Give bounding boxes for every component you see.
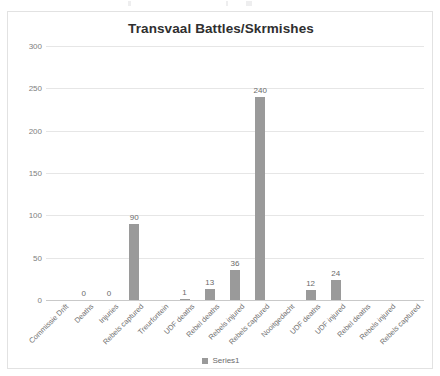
bar-value-label: 24 [331, 269, 340, 278]
bar-value-label: 1 [182, 288, 186, 297]
x-axis-category-labels: Commissie DriftDeathsInjuriesRebels capt… [46, 300, 424, 362]
bar-value-label: 13 [205, 278, 214, 287]
chart-title: Transvaal Battles/Skrmishes [8, 21, 434, 36]
y-tick-label: 250 [8, 84, 42, 93]
y-axis-tick-labels: 050100150200250300 [8, 46, 42, 300]
plot-area: 0090113362401224 [46, 46, 424, 300]
gridline [46, 131, 424, 132]
chart-legend: Series1 [8, 356, 434, 365]
bar[interactable] [306, 290, 316, 300]
bar[interactable] [331, 280, 341, 300]
legend-swatch-series1 [202, 358, 208, 364]
chart-container: Transvaal Battles/Skrmishes 050100150200… [7, 11, 433, 369]
y-tick-label: 0 [8, 296, 42, 305]
bar[interactable] [230, 270, 240, 300]
bar[interactable] [129, 224, 139, 300]
bar-value-label: 240 [254, 86, 267, 95]
bar-value-label: 90 [130, 213, 139, 222]
gridline [46, 173, 424, 174]
gridline [46, 215, 424, 216]
gridline [46, 46, 424, 47]
x-category-label: Deaths [72, 302, 95, 325]
y-tick-label: 300 [8, 42, 42, 51]
bar-value-label: 12 [306, 279, 315, 288]
y-tick-label: 200 [8, 126, 42, 135]
bar[interactable] [255, 97, 265, 300]
scan-artifact-strip [0, 0, 440, 9]
y-tick-label: 50 [8, 253, 42, 262]
x-category-label: Injuries [97, 302, 120, 325]
gridline [46, 88, 424, 89]
y-tick-label: 100 [8, 211, 42, 220]
x-category-label: Commissie Drift [27, 302, 70, 345]
bar-value-label: 0 [82, 289, 86, 298]
bar-value-label: 0 [107, 289, 111, 298]
y-tick-label: 150 [8, 169, 42, 178]
bar-value-label: 36 [231, 259, 240, 268]
bar[interactable] [205, 289, 215, 300]
legend-label-series1: Series1 [212, 356, 239, 365]
